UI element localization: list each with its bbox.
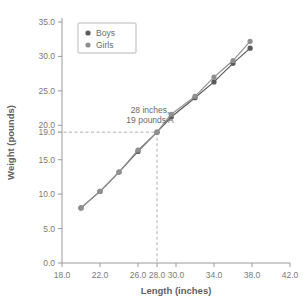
y-tick-label: 35.0 [38, 17, 55, 27]
legend-marker-girls [85, 42, 90, 47]
y-tick-label: 5.0 [43, 224, 55, 234]
x-tick-label: 42.0 [282, 270, 299, 280]
legend-label-boys: Boys [96, 28, 115, 38]
y-tick-label: 10.0 [38, 189, 55, 199]
chart-container: 0.05.010.015.019.020.025.030.035.018.022… [0, 0, 305, 304]
data-point-girls[interactable] [116, 170, 121, 175]
data-point-girls[interactable] [78, 205, 83, 210]
data-point-boys[interactable] [248, 46, 253, 51]
plot-area: 0.05.010.015.019.020.025.030.035.018.022… [5, 17, 299, 296]
x-tick-label: 22.0 [92, 270, 109, 280]
x-tick-label: 18.0 [54, 270, 71, 280]
series-line-boys [81, 48, 250, 208]
x-axis-title: Length (inches) [141, 285, 212, 296]
y-tick-label: 15.0 [38, 155, 55, 165]
legend-label-girls: Girls [96, 40, 113, 50]
annotation-label-line1: 28 inches, [131, 105, 170, 115]
data-point-girls[interactable] [248, 39, 253, 44]
x-tick-label: 38.0 [244, 270, 261, 280]
y-tick-label: 0.0 [43, 258, 55, 268]
data-point-girls[interactable] [192, 94, 197, 99]
x-tick-label: 34.0 [206, 270, 223, 280]
data-point-girls[interactable] [211, 74, 216, 79]
data-point-boys[interactable] [211, 79, 216, 84]
x-tick-label: 30.0 [168, 270, 185, 280]
y-tick-label: 30.0 [38, 51, 55, 61]
x-tick-label: 28.0 [149, 270, 166, 280]
weight-length-line-chart: 0.05.010.015.019.020.025.030.035.018.022… [0, 0, 305, 304]
data-point-girls[interactable] [230, 58, 235, 63]
y-axis-title: Weight (pounds) [5, 105, 16, 180]
y-tick-label: 20.0 [38, 120, 55, 130]
x-tick-label: 26.0 [130, 270, 147, 280]
annotation-label-line2: 19 pounds A [126, 115, 174, 125]
data-point-girls[interactable] [135, 147, 140, 152]
data-point-girls[interactable] [97, 189, 102, 194]
data-point-girls[interactable] [154, 130, 159, 135]
y-tick-label: 25.0 [38, 86, 55, 96]
legend-marker-boys [85, 30, 90, 35]
